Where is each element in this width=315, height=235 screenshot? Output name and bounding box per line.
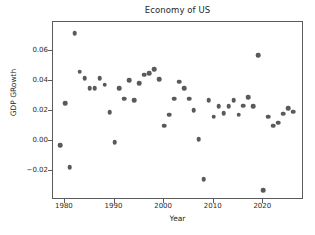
scatter-point bbox=[63, 101, 68, 106]
x-axis-tick-label: 2000 bbox=[154, 202, 172, 210]
x-axis-tick-labels: 19801990200020102020 bbox=[52, 202, 303, 214]
scatter-point bbox=[202, 177, 207, 182]
x-axis-tick-mark bbox=[213, 199, 214, 203]
scatter-point bbox=[82, 76, 87, 81]
scatter-point bbox=[162, 123, 167, 128]
plot-area bbox=[52, 21, 303, 199]
x-axis-tick-mark bbox=[262, 199, 263, 203]
scatter-point bbox=[167, 113, 172, 118]
scatter-point bbox=[187, 96, 192, 101]
x-axis-tick-mark bbox=[64, 199, 65, 203]
scatter-point bbox=[172, 96, 177, 101]
scatter-point bbox=[117, 86, 122, 91]
chart-title-container: Economy of US bbox=[52, 5, 303, 15]
scatter-point bbox=[251, 104, 256, 109]
scatter-point bbox=[271, 123, 276, 128]
scatter-point bbox=[276, 120, 281, 125]
scatter-point bbox=[182, 86, 187, 91]
scatter-point bbox=[152, 67, 157, 72]
scatter-point bbox=[221, 111, 226, 116]
y-axis-tick-label: 0.04 bbox=[32, 76, 48, 84]
scatter-point bbox=[211, 114, 216, 119]
scatter-point bbox=[261, 188, 266, 193]
x-axis-tick-label: 1980 bbox=[55, 202, 73, 210]
scatter-point bbox=[107, 110, 112, 115]
scatter-points-layer bbox=[53, 22, 302, 198]
scatter-point bbox=[266, 115, 271, 120]
y-axis-tick-label: 0.02 bbox=[32, 106, 48, 114]
scatter-point bbox=[246, 95, 251, 100]
scatter-point bbox=[226, 104, 231, 109]
y-axis-tick-label: 0.06 bbox=[32, 46, 48, 54]
y-axis-tick-mark bbox=[48, 110, 52, 111]
scatter-point bbox=[92, 86, 97, 91]
scatter-point bbox=[206, 98, 211, 103]
scatter-point bbox=[73, 31, 78, 36]
scatter-point bbox=[192, 108, 197, 113]
x-axis-tick-label: 1990 bbox=[105, 202, 123, 210]
x-axis-tick-label: 2010 bbox=[204, 202, 222, 210]
scatter-point bbox=[216, 104, 221, 109]
scatter-point bbox=[236, 113, 241, 118]
scatter-point bbox=[137, 81, 142, 86]
x-axis-tick-mark bbox=[114, 199, 115, 203]
scatter-point bbox=[112, 140, 117, 145]
y-axis-tick-label: −0.02 bbox=[27, 166, 48, 174]
y-axis-tick-label: 0.00 bbox=[32, 136, 48, 144]
scatter-point bbox=[142, 72, 147, 77]
scatter-point bbox=[102, 83, 107, 88]
scatter-point bbox=[77, 70, 82, 75]
scatter-point bbox=[291, 109, 296, 114]
scatter-point bbox=[177, 79, 182, 84]
scatter-point bbox=[68, 165, 73, 170]
y-axis-tick-mark bbox=[48, 140, 52, 141]
y-axis-tick-mark bbox=[48, 50, 52, 51]
x-axis-label: Year bbox=[52, 214, 303, 223]
scatter-point bbox=[231, 98, 236, 103]
scatter-point bbox=[87, 86, 92, 91]
matplotlib-figure: Economy of US −0.020.000.020.040.06 GDP … bbox=[0, 0, 315, 235]
x-axis-tick-label: 2020 bbox=[253, 202, 271, 210]
scatter-point bbox=[286, 106, 291, 111]
scatter-point bbox=[241, 103, 246, 108]
scatter-point bbox=[58, 143, 63, 148]
scatter-point bbox=[127, 78, 132, 83]
y-axis-tick-mark bbox=[48, 80, 52, 81]
scatter-point bbox=[256, 53, 261, 58]
scatter-point bbox=[147, 71, 152, 76]
scatter-point bbox=[97, 76, 102, 81]
scatter-point bbox=[122, 97, 127, 102]
page-title: Economy of US bbox=[52, 5, 303, 15]
y-axis-label: GDP GRowth bbox=[9, 53, 18, 133]
scatter-point bbox=[132, 98, 137, 103]
x-axis-tick-mark bbox=[163, 199, 164, 203]
scatter-point bbox=[281, 112, 286, 117]
y-axis-tick-mark bbox=[48, 170, 52, 171]
scatter-point bbox=[157, 77, 162, 82]
scatter-point bbox=[197, 137, 202, 142]
